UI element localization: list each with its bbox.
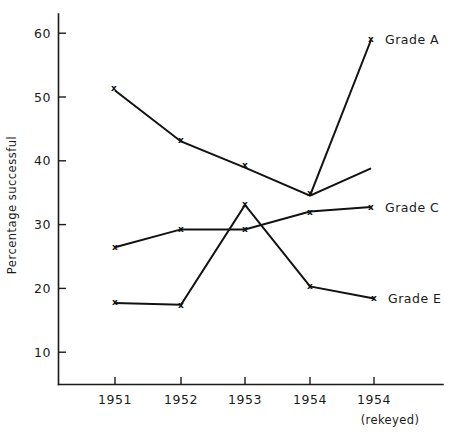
grade-c-marker-1952: x [178, 224, 184, 234]
grade-a-marker-1953: x [242, 160, 248, 170]
series-grade-e: x x x x x Grade E [112, 199, 441, 310]
x-axis-note-rekeyed: (rekeyed) [361, 413, 420, 427]
x-tick-label-1954: 1954 [293, 392, 327, 407]
x-tick-labels: 1951 1952 1953 1954 1954 (rekeyed) [98, 392, 419, 427]
grade-e-label: Grade E [388, 291, 441, 306]
series-grade-a: x x x x x Grade A [111, 32, 439, 199]
y-tick-label-30: 30 [34, 217, 51, 232]
y-tick-label-60: 60 [34, 26, 51, 41]
y-tick-label-20: 20 [34, 281, 51, 296]
grade-c-label: Grade C [385, 200, 439, 215]
x-tick-label-1952: 1952 [164, 392, 198, 407]
grade-e-line [115, 205, 374, 305]
grade-a-line [115, 91, 371, 196]
grade-c-marker-1953: x [242, 224, 248, 234]
grade-c-marker-1954: x [307, 207, 313, 217]
y-tick-labels: 10 20 30 40 50 60 [34, 26, 51, 360]
y-tick-marks [59, 33, 67, 352]
x-tick-label-1951: 1951 [98, 392, 132, 407]
grade-c-marker-1951: x [112, 242, 118, 252]
y-axis-title: Percentage successful [5, 136, 19, 274]
x-tick-marks [115, 377, 374, 385]
y-tick-label-50: 50 [34, 90, 51, 105]
grade-a-marker-1952: x [178, 135, 184, 145]
grade-e-marker-1954: x [307, 281, 313, 291]
grade-a-marker-1951: x [111, 83, 117, 93]
grade-c-marker-1954-rekeyed: x [368, 202, 374, 212]
grade-e-marker-1954-rekeyed: x [371, 293, 377, 303]
chart-canvas: 10 20 30 40 50 60 1951 1952 1953 1954 19… [0, 0, 460, 434]
grade-e-marker-1953: x [242, 199, 248, 209]
line-chart: 10 20 30 40 50 60 1951 1952 1953 1954 19… [0, 0, 460, 434]
x-tick-label-1953: 1953 [228, 392, 262, 407]
y-tick-label-40: 40 [34, 153, 51, 168]
grade-e-marker-1952: x [178, 300, 184, 310]
y-tick-label-10: 10 [34, 345, 51, 360]
grade-a-label: Grade A [385, 32, 439, 47]
grade-a-marker-1954: x [307, 188, 313, 198]
grade-e-marker-1951: x [112, 297, 118, 307]
x-tick-label-1954-rekeyed: 1954 [357, 392, 391, 407]
grade-a-marker-1954-rekeyed: x [368, 34, 374, 44]
